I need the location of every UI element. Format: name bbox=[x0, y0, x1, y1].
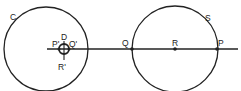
label-p: P bbox=[218, 38, 224, 48]
label-p-prime: P' bbox=[52, 39, 60, 49]
label-c: C bbox=[10, 12, 16, 22]
label-q-prime: Q' bbox=[69, 39, 78, 49]
point-q bbox=[130, 47, 134, 51]
label-r-prime: R' bbox=[58, 62, 66, 72]
label-s: S bbox=[205, 13, 211, 23]
label-r: R bbox=[172, 38, 178, 48]
geometry-diagram: C S D P' Q' R' Q R P bbox=[0, 0, 241, 91]
label-q: Q bbox=[122, 38, 129, 48]
label-d: D bbox=[61, 32, 67, 42]
